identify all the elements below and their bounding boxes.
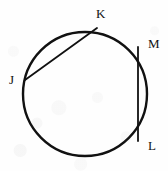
geometry-figure: K M J L bbox=[0, 0, 168, 171]
point-label-l: L bbox=[148, 139, 156, 152]
point-label-j: J bbox=[9, 73, 14, 86]
figure-canvas bbox=[0, 0, 168, 171]
point-label-k: K bbox=[96, 7, 106, 20]
point-label-m: M bbox=[148, 37, 160, 50]
circle-outline bbox=[23, 32, 147, 156]
